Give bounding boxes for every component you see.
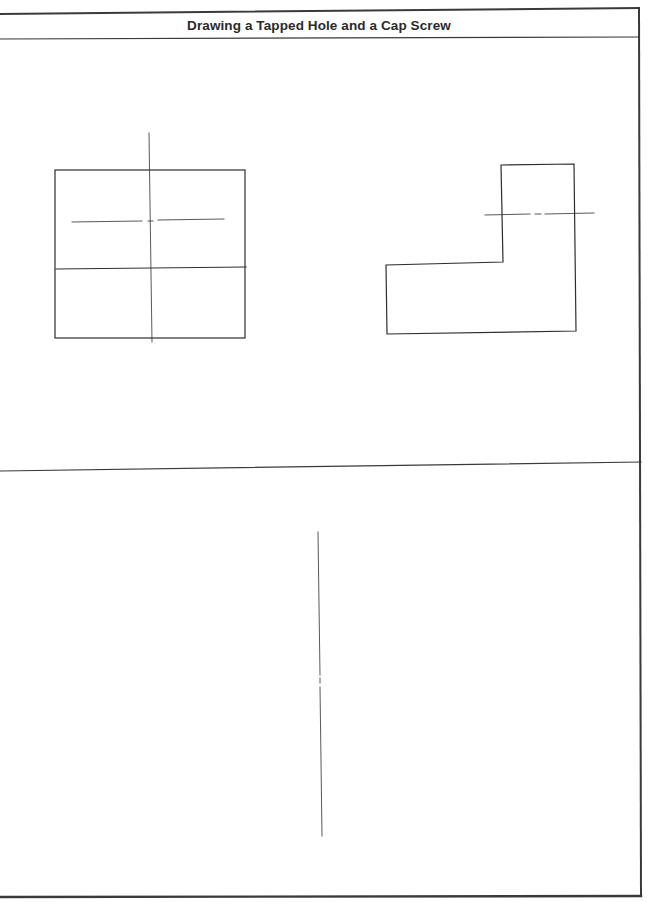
drawing-sheet: Drawing a Tapped Hole and a Cap Screw <box>0 0 653 902</box>
bottom-border <box>0 896 641 897</box>
vertical-centerline <box>149 133 152 342</box>
lower-drawing-area <box>318 532 322 836</box>
horizontal-centerline-segment <box>545 213 594 214</box>
sheet-frame <box>0 8 641 897</box>
section-divider <box>0 462 641 471</box>
upper-right-view-side-view <box>386 164 594 334</box>
l-shaped-outline <box>386 164 576 334</box>
title-underline <box>0 37 639 39</box>
horizontal-centerline-segment <box>485 214 530 215</box>
upper-left-view-front-view <box>55 133 246 342</box>
vertical-centerline-segment <box>320 687 322 836</box>
vertical-centerline-segment <box>318 532 320 675</box>
drawing-canvas <box>0 0 653 902</box>
horizontal-centerline-segment <box>72 221 142 222</box>
top-border <box>0 8 639 14</box>
right-border <box>639 8 641 896</box>
horizontal-centerline-segment <box>158 219 224 220</box>
